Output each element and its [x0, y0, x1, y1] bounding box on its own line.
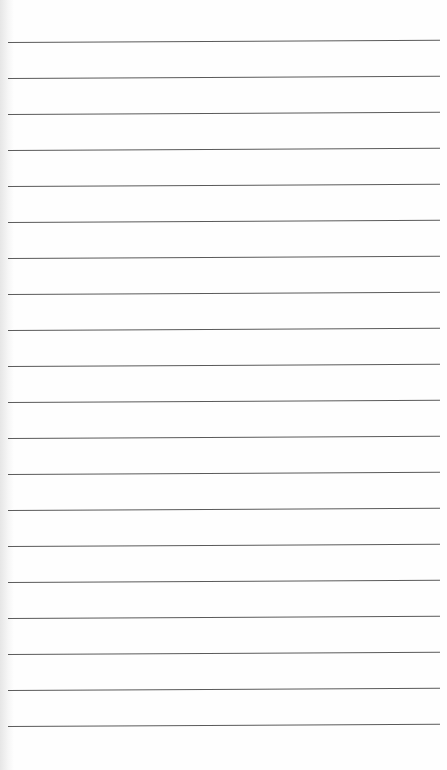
ruled-line — [8, 652, 440, 655]
ruled-line — [8, 76, 440, 79]
ruled-line — [8, 292, 440, 295]
ruled-line — [8, 400, 440, 403]
ruled-line — [8, 472, 440, 475]
ruled-line — [8, 544, 440, 547]
notepad-page — [0, 0, 447, 770]
ruled-line — [8, 508, 440, 511]
ruled-line — [8, 220, 440, 223]
ruled-line — [8, 40, 440, 43]
ruled-line — [8, 148, 440, 151]
ruled-line — [8, 580, 440, 583]
ruled-line — [8, 112, 440, 115]
ruled-line — [8, 616, 440, 619]
ruled-line — [8, 724, 440, 727]
ruled-line — [8, 364, 440, 367]
ruled-line — [8, 688, 440, 691]
ruled-line — [8, 184, 440, 187]
ruled-line — [8, 436, 440, 439]
ruled-line — [8, 256, 440, 259]
ruled-line — [8, 328, 440, 331]
